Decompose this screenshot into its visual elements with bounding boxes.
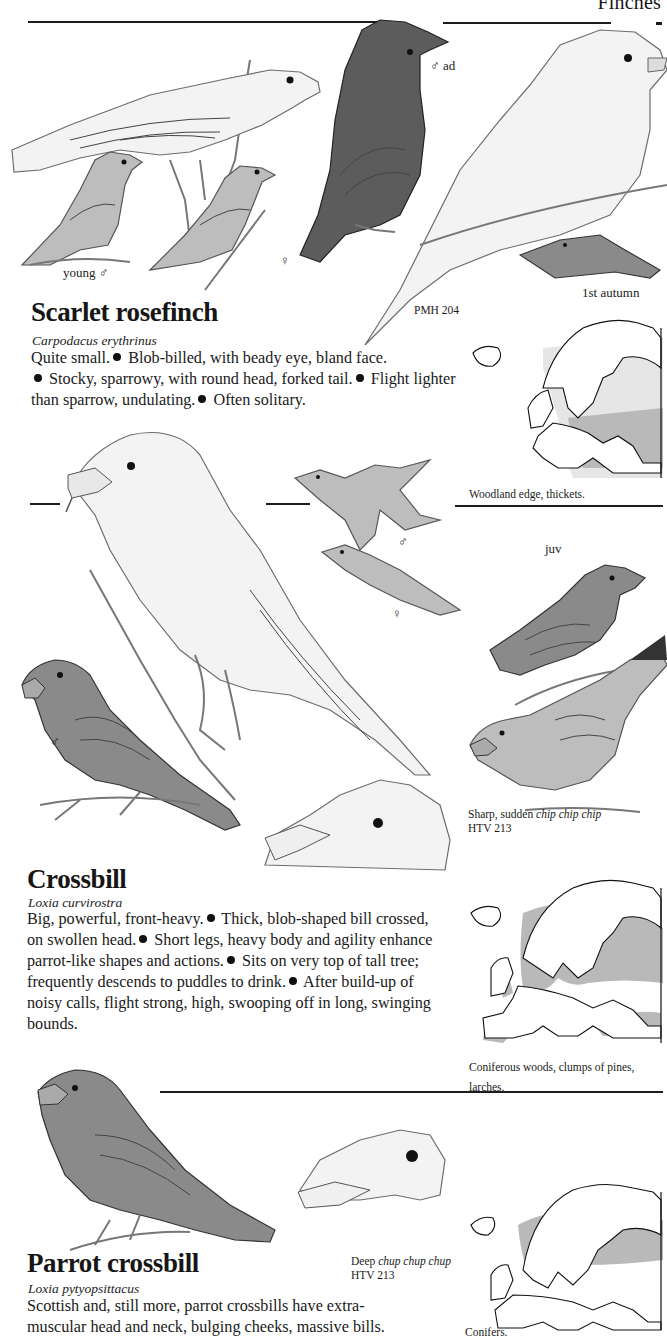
bullet-icon	[356, 374, 364, 382]
label-male-adult: ♂ ad	[430, 58, 455, 74]
call-caption-crossbill: Sharp, sudden chip chip chip HTV 213	[468, 807, 601, 835]
species-name-scarlet-rosefinch: Scarlet rosefinch	[31, 297, 218, 327]
call-reference: HTV 213	[351, 1269, 395, 1281]
desc-segment: Blob-billed, with beady eye, bland face.	[128, 349, 387, 367]
species-name-crossbill: Crossbill	[27, 864, 126, 894]
scientific-name-scarlet-rosefinch: Carpodacus erythrinus	[32, 333, 157, 349]
label-first-autumn: 1st autumn	[582, 285, 639, 301]
desc-segment: Scottish and, still more, parrot crossbi…	[27, 1297, 365, 1315]
label-flight-female: ♀	[392, 606, 402, 622]
call-text: chup chup chup	[378, 1255, 451, 1267]
bullet-icon	[227, 956, 235, 964]
distribution-map-crossbill	[463, 868, 663, 1043]
label-young-male: young ♂	[63, 265, 109, 281]
call-reference: HTV 213	[468, 822, 512, 834]
call-text: chip chip chip	[536, 808, 601, 820]
desc-segment: Often solitary.	[213, 391, 305, 409]
crossbill-illustrations	[0, 420, 667, 870]
call-caption-parrot-crossbill: Deep chup chup chup HTV 213	[351, 1254, 451, 1282]
bullet-icon	[34, 374, 42, 382]
bullet-icon	[198, 395, 206, 403]
bullet-icon	[207, 914, 215, 922]
rosefinch-female-perched-large-illustration	[0, 0, 667, 300]
description-scarlet-rosefinch: Quite small. Blob-billed, with beady eye…	[31, 348, 461, 411]
bullet-icon	[289, 977, 297, 985]
desc-segment: Big, powerful, front-heavy.	[27, 910, 204, 928]
call-prefix: Deep	[351, 1255, 378, 1267]
desc-segment: Stocky, sparrowy, with round head, forke…	[49, 370, 353, 388]
description-crossbill: Big, powerful, front-heavy. Thick, blob-…	[27, 909, 447, 1035]
desc-segment: Quite small.	[31, 349, 110, 367]
label-flight-male: ♂	[398, 534, 408, 550]
label-perched-male: ♂	[50, 734, 60, 750]
bullet-icon	[113, 353, 121, 361]
scientific-name-parrot-crossbill: Loxia pytyopsittacus	[28, 1281, 139, 1297]
habitat-caption-parrot-crossbill: Conifers.	[465, 1325, 507, 1339]
desc-segment: muscular head and neck, bulging cheeks, …	[27, 1318, 385, 1336]
species-name-parrot-crossbill: Parrot crossbill	[27, 1248, 199, 1278]
plate-reference: PMH 204	[414, 303, 459, 317]
label-juvenile: juv	[545, 541, 562, 557]
call-prefix: Sharp, sudden	[468, 808, 536, 820]
distribution-map-parrot-crossbill	[463, 1170, 663, 1330]
description-parrot-crossbill: Scottish and, still more, parrot crossbi…	[27, 1296, 447, 1338]
label-female: ♀	[280, 253, 290, 269]
bullet-icon	[139, 935, 147, 943]
